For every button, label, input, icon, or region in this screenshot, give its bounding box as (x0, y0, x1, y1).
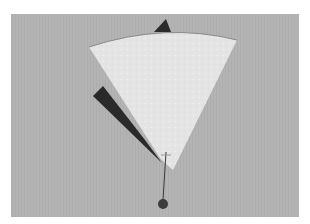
photo-scene (0, 0, 310, 224)
hanging-weight (158, 199, 168, 209)
